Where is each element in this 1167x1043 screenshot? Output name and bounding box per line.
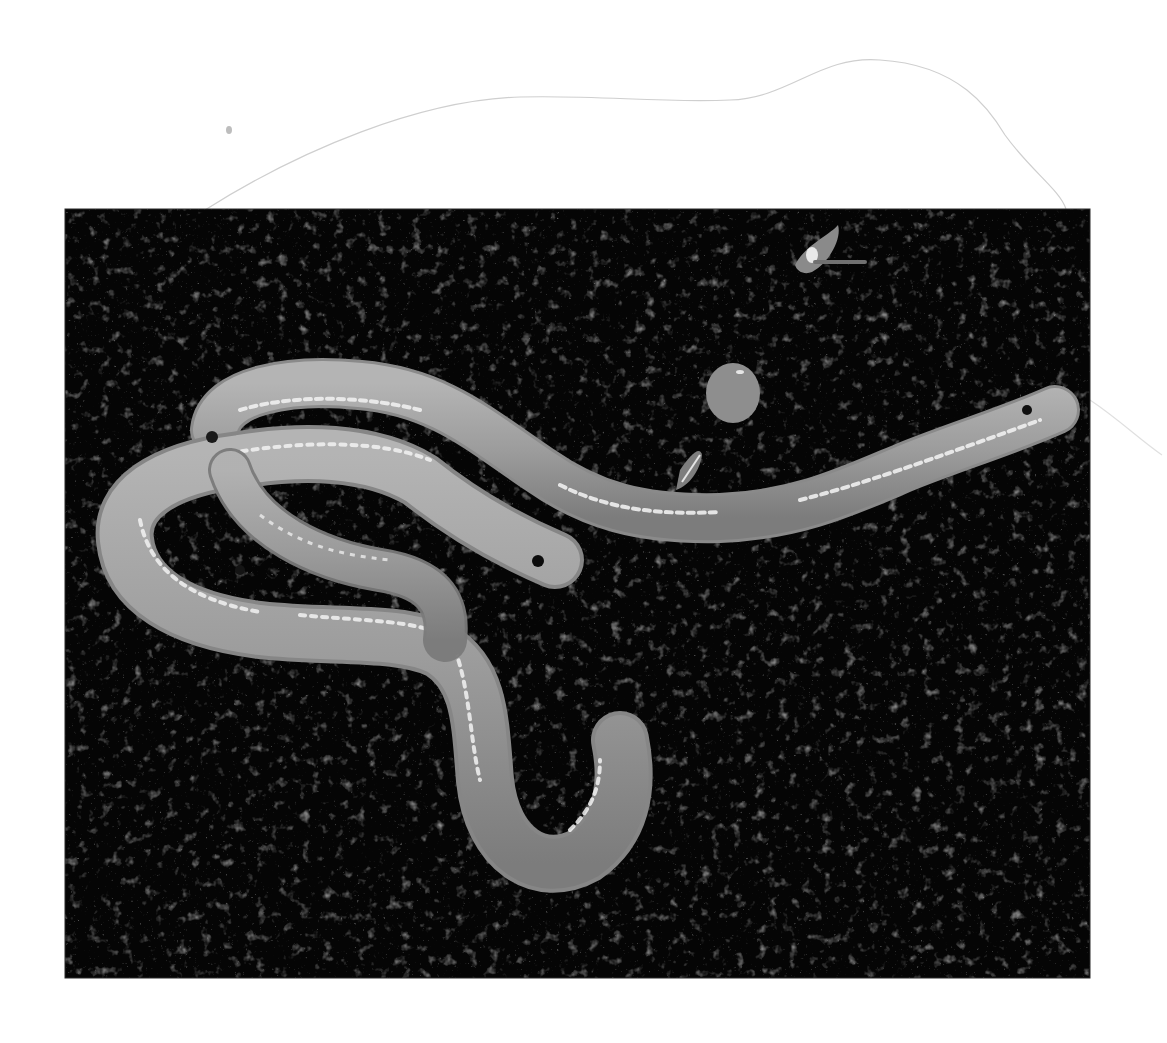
sketch-line — [205, 60, 1066, 210]
worm-upper-head-spot — [1022, 405, 1032, 415]
sketch-line-tail — [1090, 400, 1162, 455]
soil-particle — [206, 431, 218, 443]
worm-lower-head-spot — [532, 555, 544, 567]
worm-photo-scene — [0, 0, 1167, 1043]
photo — [65, 209, 1090, 978]
smudge-dot — [226, 126, 232, 134]
